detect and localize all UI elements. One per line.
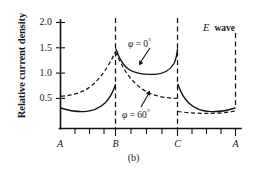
- annotation-phi-0: φ = 0°: [128, 37, 151, 49]
- y-tick-label-1-0: 1.0: [26, 67, 52, 78]
- curve-phi0-segment-CA: [178, 85, 235, 112]
- phi-equals-60: = 60: [127, 110, 147, 120]
- y-axis-label: Relative current density: [16, 3, 27, 129]
- phi-degree-60: °: [147, 108, 150, 116]
- annotation-e-wave: E wave: [203, 22, 235, 33]
- y-tick-label-0-5: 0.5: [26, 92, 52, 103]
- wave-word: wave: [214, 23, 235, 33]
- curve-phi60-segment-BC: [116, 52, 178, 98]
- annotation-phi-60: φ = 60°: [122, 108, 150, 120]
- figure-caption: (b): [0, 152, 267, 163]
- x-tick-label-A-left: A: [50, 138, 70, 149]
- curve-phi60-segment-AB: [61, 52, 116, 97]
- y-tick-label-2-0: 2.0: [26, 16, 52, 27]
- figure-panel-b: Relative current density 2.0 1.5 1.0 0.5…: [0, 0, 267, 173]
- phi-equals-0: = 0: [133, 39, 148, 49]
- x-tick-label-C: C: [168, 138, 188, 149]
- leader-line-phi60: [141, 93, 149, 107]
- y-tick-label-1-5: 1.5: [26, 42, 52, 53]
- x-tick-label-A-right: A: [226, 138, 246, 149]
- leader-line-phi0: [140, 48, 150, 63]
- x-tick-label-B: B: [106, 138, 126, 149]
- phi-degree-0: °: [148, 37, 151, 45]
- e-field-symbol: E: [203, 22, 209, 33]
